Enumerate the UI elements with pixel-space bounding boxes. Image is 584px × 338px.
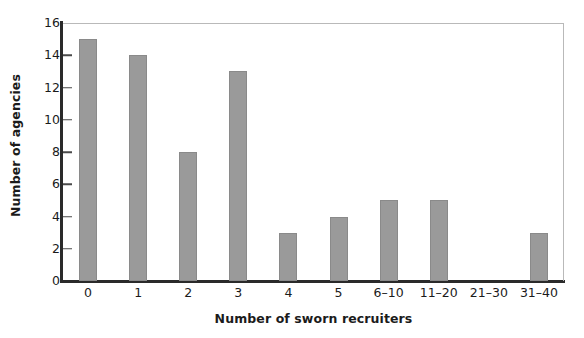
y-axis-title-text: Number of agencies [8,74,23,217]
x-tick-label: 1 [134,286,142,300]
y-tick-mark [63,151,72,153]
bar [79,39,97,281]
bar [430,200,448,281]
x-tick-label: 3 [234,286,242,300]
y-tick-label: 6 [30,178,60,191]
y-tick-label: 4 [30,210,60,223]
y-axis-title: Number of agencies [0,0,30,290]
y-tick-mark [63,216,72,218]
x-tick-label: 6–10 [374,286,404,300]
x-tick-label: 21–30 [470,286,508,300]
bar [129,55,147,281]
x-tick-label: 4 [284,286,292,300]
y-tick-label: 10 [30,114,60,127]
x-tick-label: 0 [84,286,92,300]
bar-chart-figure: Number of agencies 0246810121416 0123456… [0,0,584,338]
y-tick-label: 14 [30,49,60,62]
x-axis-title: Number of sworn recruiters [63,311,564,326]
x-tick-label: 11–20 [420,286,458,300]
y-tick-mark [63,119,72,121]
y-tick-label: 16 [30,17,60,30]
y-tick-label: 8 [30,146,60,159]
bar [279,233,297,281]
y-tick-mark [63,248,72,250]
x-axis-tick-labels: 0123456–1011–2021–3031–40 [63,286,564,308]
x-tick-label: 2 [184,286,192,300]
y-tick-label: 2 [30,243,60,256]
bar [530,233,548,281]
y-tick-mark [63,87,72,89]
bar [229,71,247,281]
y-tick-mark [63,184,72,186]
bar [179,152,197,281]
y-axis-tick-labels: 0246810121416 [28,0,60,338]
y-tick-label: 12 [30,81,60,94]
bar-series [63,23,564,281]
y-tick-mark [63,55,72,57]
x-tick-label: 31–40 [520,286,558,300]
x-tick-label: 5 [335,286,343,300]
y-tick-label: 0 [30,275,60,288]
bar [330,217,348,282]
bar [380,200,398,281]
